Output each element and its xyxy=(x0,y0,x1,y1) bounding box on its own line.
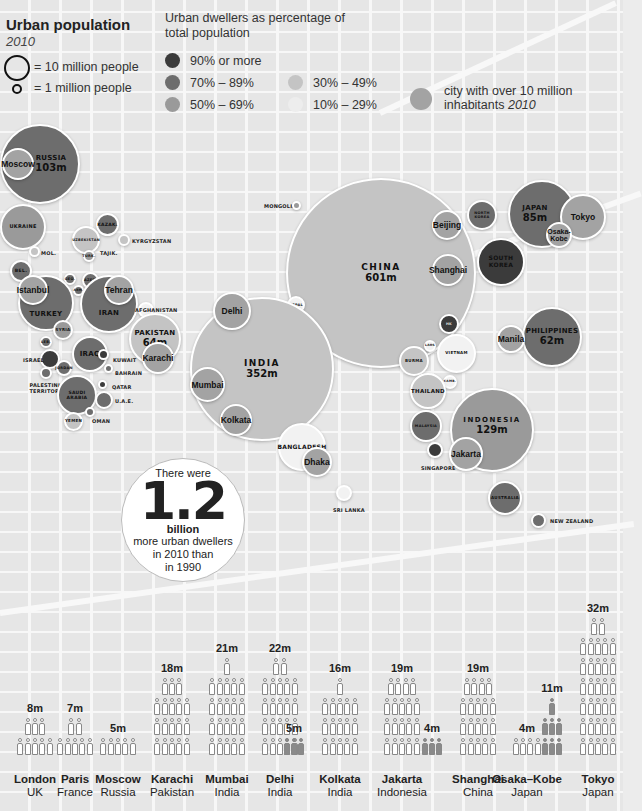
person-icon xyxy=(595,658,601,676)
person-icon xyxy=(262,698,268,716)
bubble-australia: AUSTRALIA xyxy=(488,481,522,515)
person-icon xyxy=(291,738,297,756)
person-icon xyxy=(100,738,106,756)
person-icon xyxy=(410,678,416,696)
bubble-thailand: THAILAND xyxy=(410,373,446,409)
label-kyrgyzstan: KYRGYZSTAN xyxy=(132,238,171,244)
person-icon xyxy=(468,738,474,756)
person-icon xyxy=(352,718,358,736)
person-icon xyxy=(595,738,601,756)
person-icon xyxy=(47,738,53,756)
person-icon xyxy=(239,738,245,756)
person-icon xyxy=(610,678,616,696)
person-icon xyxy=(162,678,168,696)
label-qatar: QATAR xyxy=(112,384,131,390)
person-icon xyxy=(217,738,223,756)
person-icon xyxy=(344,738,350,756)
person-icon xyxy=(482,698,488,716)
city-moscow: Moscow xyxy=(2,148,34,180)
person-icon xyxy=(482,738,488,756)
label-moldova: MOL. xyxy=(41,250,56,256)
person-icon xyxy=(549,718,555,736)
person-stack xyxy=(384,678,421,758)
person-icon xyxy=(162,738,168,756)
person-icon xyxy=(322,718,328,736)
person-icon xyxy=(176,698,182,716)
label-oman: OMAN xyxy=(92,418,110,424)
person-icon xyxy=(231,738,237,756)
person-icon xyxy=(414,738,420,756)
person-icon xyxy=(602,678,608,696)
person-icon xyxy=(588,698,594,716)
person-icon xyxy=(479,678,485,696)
person-icon xyxy=(403,678,409,696)
person-icon xyxy=(39,718,45,736)
legend-label-30: 30% – 49% xyxy=(313,76,377,90)
person-icon xyxy=(513,738,519,756)
label-singapore: SINGAPORE xyxy=(421,465,456,471)
bubble-kazakhstan: KAZAK. xyxy=(96,213,119,236)
city-label: TokyoJapan xyxy=(558,773,638,799)
person-icon xyxy=(588,678,594,696)
person-icon xyxy=(599,618,605,636)
label-new-zealand: NEW ZEALAND xyxy=(550,518,593,524)
person-icon xyxy=(284,678,290,696)
person-icon xyxy=(610,738,616,756)
person-icon xyxy=(322,698,328,716)
person-icon xyxy=(490,698,496,716)
population-label: 7m xyxy=(55,702,95,714)
person-icon xyxy=(281,658,287,676)
city-mumbai: Mumbai xyxy=(190,367,225,402)
label-bahrain: BAHRAIN xyxy=(115,370,142,376)
person-icon xyxy=(169,738,175,756)
person-icon xyxy=(602,658,608,676)
person-icon xyxy=(595,718,601,736)
person-icon xyxy=(580,658,586,676)
person-icon xyxy=(414,698,420,716)
person-icon xyxy=(209,698,215,716)
swatch-70-icon xyxy=(165,75,180,90)
person-icon xyxy=(602,718,608,736)
person-icon xyxy=(527,738,533,756)
bubble-vietnam: VIETNAM xyxy=(437,334,476,373)
person-icon xyxy=(154,738,160,756)
person-icon xyxy=(591,618,597,636)
person-icon xyxy=(292,698,298,716)
label-uae: U.A.E. xyxy=(115,398,133,404)
swatch-30-icon xyxy=(288,75,303,90)
city-label: Osaka–KobeJapan xyxy=(487,773,567,799)
person-icon xyxy=(72,738,78,756)
person-icon xyxy=(330,718,336,736)
person-icon xyxy=(169,698,175,716)
bubble-burma: BURMA xyxy=(399,346,429,376)
person-icon xyxy=(460,698,466,716)
bubble-syria: SYRIA xyxy=(53,320,73,340)
person-icon xyxy=(79,738,85,756)
person-icon xyxy=(209,718,215,736)
person-icon xyxy=(468,718,474,736)
population-label: 19m xyxy=(382,662,422,674)
population-label: 22m xyxy=(260,642,300,654)
person-icon xyxy=(284,738,290,756)
person-icon xyxy=(330,738,336,756)
scale-circle-small-icon xyxy=(12,84,22,94)
person-icon xyxy=(580,698,586,716)
person-icon xyxy=(330,698,336,716)
bubble-oman xyxy=(85,407,95,417)
person-icon xyxy=(399,698,405,716)
population-label: 32m xyxy=(578,602,618,614)
person-icon xyxy=(270,678,276,696)
person-icon xyxy=(475,698,481,716)
person-icon xyxy=(115,738,121,756)
person-icon xyxy=(595,678,601,696)
population-label: 21m xyxy=(207,642,247,654)
callout-number: 1.2 xyxy=(122,479,244,523)
person-icon xyxy=(231,698,237,716)
person-icon xyxy=(556,718,562,736)
city-dhaka: Dhaka xyxy=(302,447,332,477)
color-legend-title: Urban dwellers as percentage of total po… xyxy=(165,11,365,41)
scale-large-label: = 10 million people xyxy=(34,60,139,74)
person-stack xyxy=(421,738,443,758)
population-label: 8m xyxy=(15,702,55,714)
person-icon xyxy=(588,738,594,756)
